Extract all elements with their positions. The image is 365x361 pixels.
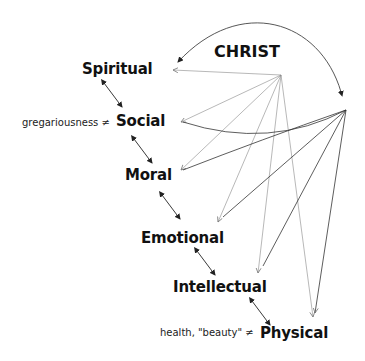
dimension-social: Social [116, 112, 165, 130]
center-label-christ: CHRIST [214, 42, 280, 61]
dimension-moral: Moral [125, 166, 172, 184]
dimension-emotional: Emotional [141, 229, 224, 247]
connections-diagram [0, 0, 365, 361]
dimension-intellectual: Intellectual [173, 278, 267, 296]
dimension-spiritual: Spiritual [82, 60, 153, 78]
note-physical: health, "beauty" ≠ [160, 327, 254, 338]
dimension-physical: Physical [260, 324, 328, 342]
note-social: gregariousness ≠ [22, 117, 110, 128]
